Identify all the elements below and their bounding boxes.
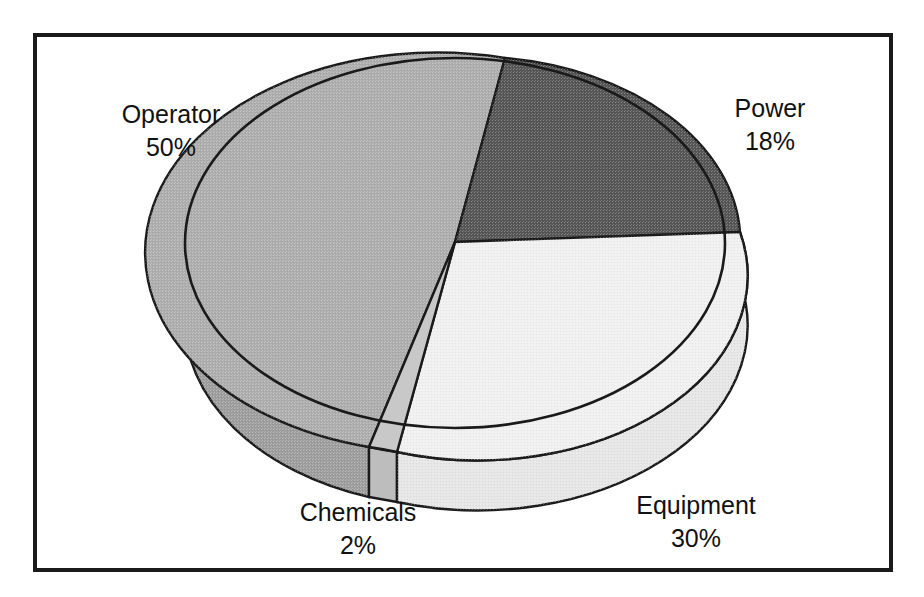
- pie-label-operator-value: 50%: [76, 131, 266, 164]
- pie-label-chemicals: Chemicals 2%: [258, 496, 458, 562]
- pie-slice-side-chemicals: [369, 447, 397, 502]
- pie-label-chemicals-name: Chemicals: [300, 498, 417, 526]
- pie-label-operator: Operator 50%: [76, 98, 266, 164]
- pie-label-equipment-value: 30%: [596, 522, 796, 555]
- pie-label-equipment-name: Equipment: [636, 491, 756, 519]
- pie-label-power: Power 18%: [690, 92, 850, 158]
- pie-label-chemicals-value: 2%: [258, 529, 458, 562]
- pie-label-equipment: Equipment 30%: [596, 489, 796, 555]
- pie-label-power-value: 18%: [690, 125, 850, 158]
- figure-canvas: Operator 50% Power 18% Chemicals 2% Equi…: [0, 0, 924, 597]
- pie-label-power-name: Power: [735, 94, 806, 122]
- pie-label-operator-name: Operator: [122, 100, 221, 128]
